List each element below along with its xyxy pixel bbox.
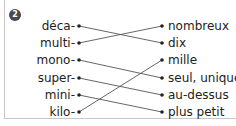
right-dot-icon bbox=[160, 110, 164, 114]
line-mono-seul bbox=[79, 60, 162, 78]
right-dot-icon bbox=[160, 76, 164, 80]
left-dot-icon bbox=[77, 24, 81, 28]
right-dot-icon bbox=[160, 24, 164, 28]
matching-lines bbox=[0, 0, 236, 126]
right-dot-icon bbox=[160, 58, 164, 62]
line-mini-plus-petit bbox=[79, 95, 162, 112]
left-dot-icon bbox=[77, 76, 81, 80]
left-dot-icon bbox=[77, 110, 81, 114]
right-dot-icon bbox=[160, 93, 164, 97]
left-dot-icon bbox=[77, 93, 81, 97]
right-dot-icon bbox=[160, 41, 164, 45]
left-dot-icon bbox=[77, 41, 81, 45]
left-dot-icon bbox=[77, 58, 81, 62]
line-kilo-mille bbox=[79, 60, 162, 112]
